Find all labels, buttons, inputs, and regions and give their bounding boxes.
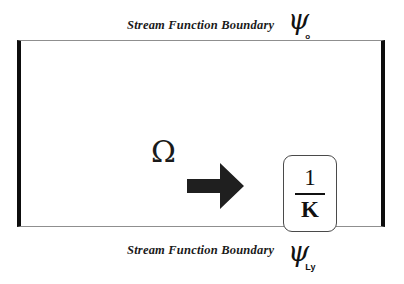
result-box: 1 K	[283, 155, 337, 232]
fraction-bar	[295, 193, 325, 196]
arrow-shape	[187, 163, 244, 209]
psi-glyph-bottom: ψ	[288, 238, 309, 265]
bottom-boundary-label: Stream Function Boundary	[127, 243, 274, 258]
fraction-denominator: K	[301, 197, 319, 221]
computational-domain-frame: Ω 1 K	[17, 40, 385, 227]
figure-canvas: Stream Function Boundary ψo Ω 1 K Stream…	[0, 0, 404, 284]
fraction-numerator: 1	[304, 166, 316, 190]
top-boundary-label: Stream Function Boundary	[127, 18, 274, 33]
bottom-stream-function-symbol: ψLy	[288, 238, 320, 265]
right-arrow-icon	[187, 157, 245, 215]
psi-glyph-top: ψ	[288, 6, 309, 33]
fraction-one-over-k: 1 K	[295, 166, 325, 222]
psi-subscript-bottom: Ly	[305, 262, 316, 272]
right-arrow-svg	[187, 157, 245, 215]
top-stream-function-symbol: ψo	[288, 6, 314, 33]
vorticity-omega-symbol: Ω	[151, 137, 176, 167]
